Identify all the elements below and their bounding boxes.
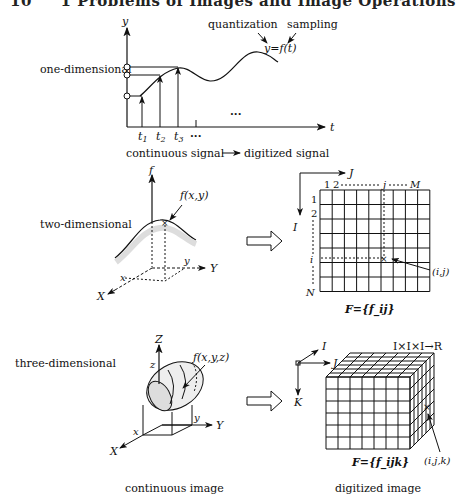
transform-arrow-3d <box>247 391 282 411</box>
svg-text:y: y <box>193 412 200 423</box>
svg-text:M: M <box>409 179 421 190</box>
svg-text:f(x,y,z): f(x,y,z) <box>192 351 229 364</box>
svg-text:y=f(t): y=f(t) <box>263 42 297 55</box>
figure-canvas: y t quantization sampling y=f(t) t1 t2 t… <box>0 0 469 504</box>
svg-text:t1: t1 <box>138 130 148 144</box>
svg-text:I×I×I→R: I×I×I→R <box>393 340 443 353</box>
svg-text:t: t <box>330 121 335 134</box>
svg-text:f: f <box>148 164 155 177</box>
svg-text:I: I <box>321 340 327 353</box>
svg-text:1: 1 <box>311 194 317 205</box>
svg-text:t3: t3 <box>174 130 184 144</box>
three-d-continuous: Z z f(x,y,z) y x Y X <box>109 333 229 458</box>
svg-text:x: x <box>133 426 139 437</box>
svg-text:K: K <box>293 396 303 409</box>
svg-text:I: I <box>292 221 298 234</box>
svg-text:sampling: sampling <box>287 18 338 31</box>
caption-digitized: digitized image <box>335 482 421 495</box>
svg-text:×: × <box>423 402 431 412</box>
svg-text:J: J <box>347 167 354 180</box>
svg-text:j: j <box>381 179 386 190</box>
svg-text:(i,j): (i,j) <box>432 266 449 277</box>
three-d-grid: I J K I×I×I→R × (i,j,k) F={f_ijk} <box>293 340 451 470</box>
svg-text:x: x <box>120 272 126 283</box>
svg-text:f(x,y): f(x,y) <box>179 189 209 202</box>
svg-text:Y: Y <box>216 419 225 432</box>
svg-text:2: 2 <box>311 208 317 219</box>
caption-continuous: continuous image <box>125 482 224 495</box>
svg-text:quantization: quantization <box>208 18 278 31</box>
svg-text:X: X <box>109 445 119 458</box>
two-d-continuous: f f(x,y) × y x Y X <box>96 164 219 303</box>
svg-text:2: 2 <box>333 179 339 190</box>
svg-text:1: 1 <box>324 179 330 190</box>
svg-text:continuous signal: continuous signal <box>126 147 225 160</box>
svg-text:i: i <box>310 254 313 265</box>
svg-text:Z: Z <box>154 333 163 346</box>
transform-arrow-2d <box>247 231 282 251</box>
svg-text:t2: t2 <box>156 130 166 144</box>
svg-text:(i,j,k): (i,j,k) <box>424 455 451 466</box>
svg-text:X: X <box>96 290 106 303</box>
svg-text:y: y <box>121 15 129 28</box>
svg-text:...: ... <box>230 105 242 118</box>
svg-text:N: N <box>305 287 316 298</box>
svg-text:digitized signal: digitized signal <box>244 147 330 160</box>
svg-text:F={f_ijk}: F={f_ijk} <box>351 456 409 470</box>
svg-text:y: y <box>183 255 190 266</box>
svg-text:...: ... <box>190 127 202 140</box>
svg-text:×: × <box>380 254 388 264</box>
one-d-plot: y t quantization sampling y=f(t) t1 t2 t… <box>121 15 338 160</box>
svg-text:Y: Y <box>210 262 219 275</box>
two-d-grid: J I 1 2 j M 1 2 i N × (i,j) F={f_ij} <box>292 167 449 317</box>
svg-text:F={f_ij}: F={f_ij} <box>344 303 395 317</box>
svg-text:z: z <box>149 359 156 370</box>
